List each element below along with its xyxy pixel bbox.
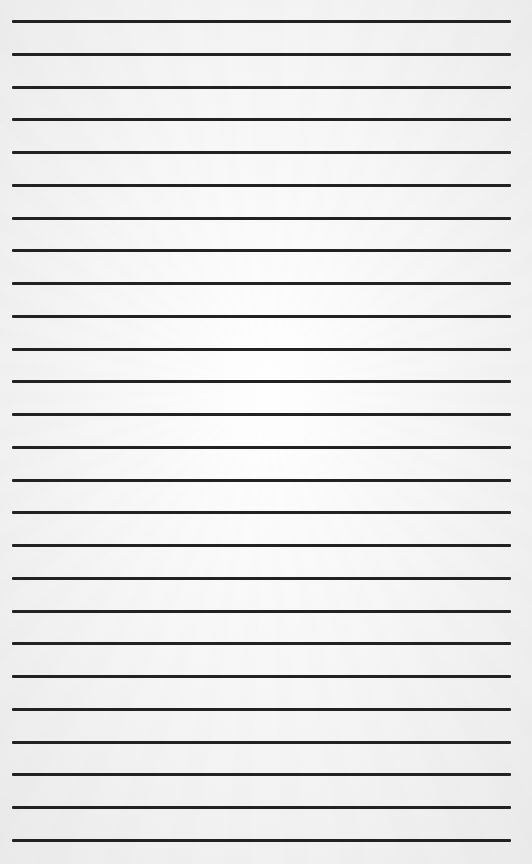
ruled-line (12, 86, 511, 89)
ruled-line (12, 642, 511, 645)
ruled-line (12, 413, 511, 416)
ruled-line (12, 708, 511, 711)
ruled-line (12, 544, 511, 547)
ruled-line (12, 675, 511, 678)
ruled-line (12, 315, 511, 318)
ruled-line (12, 741, 511, 744)
ruled-line (12, 53, 511, 56)
ruled-line (12, 217, 511, 220)
ruled-line (12, 511, 511, 514)
ruled-line (12, 577, 511, 580)
ruled-line (12, 610, 511, 613)
ruled-line (12, 380, 511, 383)
ruled-line (12, 20, 511, 23)
ruled-line (12, 773, 511, 776)
ruled-line (12, 151, 511, 154)
ruled-line (12, 282, 511, 285)
ruled-line (12, 806, 511, 809)
ruled-line (12, 348, 511, 351)
ruled-line (12, 118, 511, 121)
lined-paper (0, 0, 532, 864)
ruled-line (12, 184, 511, 187)
ruled-line (12, 446, 511, 449)
ruled-line (12, 839, 511, 842)
ruled-line (12, 479, 511, 482)
ruled-line (12, 249, 511, 252)
